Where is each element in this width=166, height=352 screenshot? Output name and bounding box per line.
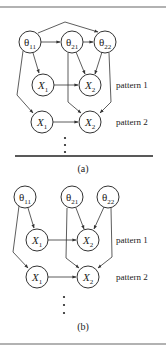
edge-theta11-x1-p1 xyxy=(28,208,34,228)
pattern-1-label: pattern 1 xyxy=(116,235,148,245)
node-x1-pattern1: X1 xyxy=(32,74,54,96)
node-x1-pattern2: X1 xyxy=(26,266,48,288)
node-theta22: θ22 xyxy=(94,31,116,53)
node-theta21: θ21 xyxy=(61,186,83,208)
node-x1-pattern2: X1 xyxy=(31,111,53,133)
node-x2-pattern1: X2 xyxy=(77,229,99,251)
edge-theta11-x1-p1 xyxy=(33,53,39,73)
node-x2-pattern2: X2 xyxy=(77,266,99,288)
node-theta22: θ22 xyxy=(97,186,119,208)
pattern-2-label: pattern 2 xyxy=(116,117,148,127)
pattern-1-label: pattern 1 xyxy=(116,80,148,90)
panel-a: θ11 θ21 θ22 X1 X2 X1 X2 pattern 1 pat xyxy=(15,22,153,175)
node-theta11: θ11 xyxy=(19,31,41,53)
node-theta11: θ11 xyxy=(14,186,36,208)
edge-theta21-x2-p1 xyxy=(76,52,85,74)
edge-theta22-x2-p2 xyxy=(100,53,111,113)
node-x1-pattern1: X1 xyxy=(26,229,48,251)
bayesian-network-figure: θ11 θ21 θ22 X1 X2 X1 X2 pattern 1 pat xyxy=(0,0,166,352)
panel-b: θ11 θ21 θ22 X1 X2 X1 X2 pattern 1 pat xyxy=(13,186,148,333)
node-theta21: θ21 xyxy=(61,31,83,53)
caption-a: (a) xyxy=(77,163,88,175)
node-x2-pattern2: X2 xyxy=(79,111,101,133)
node-x2-pattern1: X2 xyxy=(79,74,101,96)
edge-theta22-x2-p2 xyxy=(98,208,112,268)
continuation-dots xyxy=(63,296,65,314)
pattern-2-label: pattern 2 xyxy=(116,272,148,282)
edge-theta22-x2-p1 xyxy=(95,52,102,74)
caption-b: (b) xyxy=(77,321,89,333)
edge-theta11-x1-p2 xyxy=(13,206,28,268)
edge-theta11-x1-p2 xyxy=(17,51,33,113)
edge-theta22-x2-p1 xyxy=(94,207,104,229)
edge-theta21-x2-p1 xyxy=(76,208,84,229)
continuation-dots xyxy=(64,137,66,153)
